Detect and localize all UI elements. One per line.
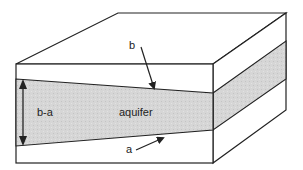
label-b: b [129, 39, 135, 51]
label-a: a [126, 143, 133, 155]
diagram-canvas: b-a aquifer b a [0, 0, 303, 170]
label-thickness: b-a [37, 106, 54, 118]
aquifer-block-diagram: b-a aquifer b a [0, 0, 303, 170]
label-aquifer: aquifer [119, 106, 153, 118]
